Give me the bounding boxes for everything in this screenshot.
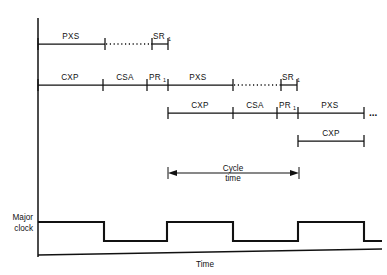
row-2-segment-label-pxs: PXS xyxy=(189,73,207,82)
y-axis-label-line2: clock xyxy=(14,224,34,233)
row-2-segment-label-sr: SR xyxy=(282,73,294,82)
row-1-segment-label-sr: SR xyxy=(153,32,165,41)
row-3-segment-subscript-pr: 1 xyxy=(293,105,296,111)
row-3-segment-label-pxs: PXS xyxy=(321,101,339,110)
pipeline-row-3: CXP CSA PR 1 PXS ... xyxy=(168,101,378,119)
cycle-time-arrowhead-left xyxy=(168,170,177,176)
row-3-continuation-ellipsis: ... xyxy=(369,107,378,118)
timing-diagram-canvas: PXS SR 1 CXP CSA PR 1 PXS SR 1 xyxy=(0,0,387,275)
pipeline-row-2: CXP CSA PR 1 PXS SR 1 xyxy=(38,73,300,91)
row-2-segment-label-csa: CSA xyxy=(116,73,134,82)
row-2-segment-label-cxp: CXP xyxy=(61,73,79,82)
row-3-segment-label-csa: CSA xyxy=(246,101,264,110)
x-axis-label-time: Time xyxy=(196,260,214,269)
cycle-time-label-line2: time xyxy=(225,174,241,183)
row-2-segment-subscript-sr: 1 xyxy=(297,77,300,83)
pipeline-row-4: CXP xyxy=(298,129,364,147)
major-clock-waveform xyxy=(38,222,382,241)
cycle-time-annotation: Cycle time xyxy=(168,164,299,183)
row-2-segment-subscript-pr: 1 xyxy=(163,77,166,83)
time-axis xyxy=(38,249,382,255)
row-4-segment-label-cxp: CXP xyxy=(322,129,340,138)
clock-trace xyxy=(38,222,382,241)
row-3-segment-label-pr: PR xyxy=(279,101,291,110)
pipeline-row-1: PXS SR 1 xyxy=(38,32,171,50)
row-1-segment-subscript-sr: 1 xyxy=(168,36,171,42)
y-axis-label-line1: Major xyxy=(13,213,34,222)
row-2-segment-label-pr: PR xyxy=(149,73,161,82)
row-3-segment-label-cxp: CXP xyxy=(191,101,209,110)
row-1-segment-label-pxs: PXS xyxy=(62,32,80,41)
cycle-time-arrowhead-right xyxy=(290,170,299,176)
timing-diagram-figure: PXS SR 1 CXP CSA PR 1 PXS SR 1 xyxy=(0,0,387,275)
cycle-time-label-line1: Cycle xyxy=(223,164,244,173)
